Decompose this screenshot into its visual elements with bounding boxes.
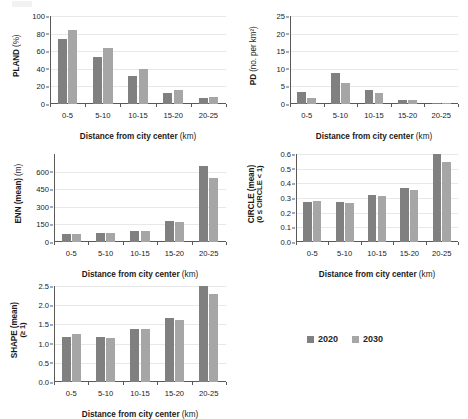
x-tick-label: 20-25	[199, 111, 218, 120]
y-tick-label: 25	[277, 12, 285, 21]
x-tick-label: 5-10	[98, 389, 113, 398]
bar-group	[324, 16, 358, 104]
bar-enn-15to20-2020	[165, 221, 174, 242]
chart-panel-circle: CIRCLE (mean)(0 ≤ CIRCLE < 1)0.00.10.20.…	[238, 146, 466, 270]
y-tick-label: 60	[37, 47, 45, 56]
y-tick-label: 0	[41, 100, 45, 109]
plot-area	[54, 154, 226, 242]
bar-pd-15to20-2030	[408, 100, 417, 104]
page-artifact	[12, 1, 32, 7]
x-tickmark	[50, 104, 51, 107]
bar-shape-20to25-2020	[199, 286, 208, 382]
x-tickmark	[157, 242, 158, 245]
bar-group	[191, 16, 226, 104]
x-tick-label: 15-20	[165, 389, 184, 398]
x-tick-label: 0-5	[62, 111, 73, 120]
bar-circle-5to10-2020	[336, 202, 344, 242]
x-tickmark	[458, 104, 459, 107]
bar-group	[54, 286, 88, 382]
bar-shape-10to15-2020	[130, 329, 139, 382]
chart-legend: 2020 2030	[307, 334, 383, 344]
x-tickmark	[85, 104, 86, 107]
bar-enn-20to25-2030	[209, 178, 218, 242]
x-tick-label: 10-15	[128, 111, 147, 120]
bar-shape-5to10-2030	[106, 338, 115, 382]
bar-pd-15to20-2020	[398, 100, 407, 104]
bar-pland-10to15-2020	[128, 76, 137, 104]
y-tick-label: 150	[36, 220, 49, 229]
x-tick-label: 15-20	[163, 111, 182, 120]
legend-item-2020: 2020	[307, 334, 338, 344]
bar-group	[54, 154, 88, 242]
bar-pland-5to10-2030	[103, 48, 112, 104]
y-tick-label: 20	[277, 29, 285, 38]
bar-group	[123, 286, 157, 382]
x-tickmark	[328, 242, 329, 245]
bar-pd-10to15-2020	[365, 90, 374, 104]
bar-enn-0to5-2020	[62, 234, 71, 242]
bar-pd-5to10-2030	[341, 83, 350, 104]
y-tick-label: 450	[36, 185, 49, 194]
x-axis-label: Distance from city center (km)	[50, 132, 226, 141]
y-axis-ticks: 0150300450600	[6, 154, 49, 242]
x-tick-label: 5-10	[95, 111, 110, 120]
bar-enn-5to10-2030	[106, 233, 115, 242]
bar-enn-10to15-2030	[141, 231, 150, 242]
bar-circle-20to25-2020	[433, 154, 441, 242]
x-tickmark	[157, 382, 158, 385]
y-tick-label: 100	[32, 12, 45, 21]
bar-pland-5to10-2020	[93, 57, 102, 104]
x-tickmark	[192, 382, 193, 385]
x-tick-label: 10-15	[130, 249, 149, 258]
bar-group	[120, 16, 155, 104]
x-tickmark	[426, 242, 427, 245]
bar-enn-15to20-2030	[175, 222, 184, 242]
x-tickmark	[361, 242, 362, 245]
y-tick-label: 40	[37, 64, 45, 73]
x-tickmark	[120, 104, 121, 107]
bar-circle-20to25-2030	[442, 162, 450, 242]
bar-group	[192, 286, 226, 382]
x-tickmark	[123, 242, 124, 245]
bar-group	[393, 154, 425, 242]
y-tick-label: 80	[37, 29, 45, 38]
bar-circle-0to5-2020	[303, 202, 311, 242]
x-tickmark	[393, 242, 394, 245]
chart-panel-pland: PLAND (%)0204060801000-55-1010-1515-2020…	[6, 8, 234, 132]
x-tickmark	[123, 382, 124, 385]
x-tickmark	[88, 382, 89, 385]
x-tick-label: 0-5	[307, 249, 318, 258]
legend-label-2030: 2030	[363, 334, 383, 344]
bar-circle-10to15-2030	[378, 196, 386, 242]
bar-group	[296, 154, 328, 242]
x-tick-label: 20-25	[199, 389, 218, 398]
y-tick-label: 20	[37, 82, 45, 91]
x-tick-label: 0-5	[66, 389, 77, 398]
y-tick-label: 600	[36, 167, 49, 176]
x-tick-label: 10-15	[367, 249, 386, 258]
y-tick-label: 10	[277, 64, 285, 73]
y-tick-label: 2.5	[38, 282, 49, 291]
y-tick-label: 1.5	[38, 320, 49, 329]
x-tick-label: 0-5	[66, 249, 77, 258]
x-tickmark	[324, 104, 325, 107]
y-axis-ticks: 0.00.51.01.52.02.5	[6, 286, 49, 382]
bar-pd-10to15-2030	[375, 93, 384, 104]
x-axis-label: Distance from city center (km)	[54, 410, 226, 419]
x-tickmark	[226, 104, 227, 107]
y-tick-label: 0.1	[280, 223, 291, 232]
bar-group	[328, 154, 360, 242]
x-axis-label: Distance from city center (km)	[290, 132, 458, 141]
x-tick-label: 15-20	[165, 249, 184, 258]
bar-pland-20to25-2020	[199, 98, 208, 104]
x-tickmark	[191, 104, 192, 107]
bar-pd-0to5-2030	[307, 98, 316, 104]
plot-area	[290, 16, 458, 104]
y-tick-label: 15	[277, 47, 285, 56]
bar-group	[50, 16, 85, 104]
x-tick-label: 10-15	[364, 111, 383, 120]
bar-enn-0to5-2030	[72, 234, 81, 242]
x-tickmark	[296, 242, 297, 245]
y-tick-label: 0.0	[280, 238, 291, 247]
x-tick-label: 15-20	[400, 249, 419, 258]
